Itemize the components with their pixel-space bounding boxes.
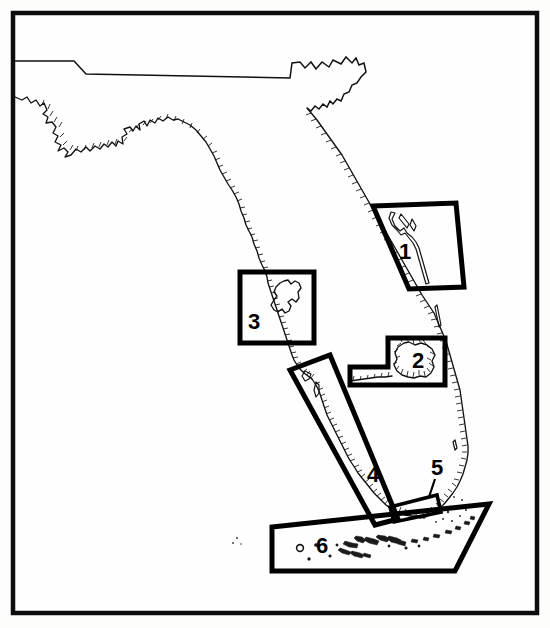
- study-area-label-1: 1: [399, 239, 411, 264]
- study-area-label-3: 3: [248, 309, 260, 334]
- study-area-label-4: 4: [367, 462, 380, 487]
- study-area-label-6: 6: [316, 533, 328, 558]
- figure-container: 1 2 3 4 5 6: [0, 0, 550, 628]
- study-area-label-2: 2: [412, 348, 424, 373]
- study-area-label-5: 5: [431, 455, 443, 480]
- florida-map: 1 2 3 4 5 6: [0, 0, 550, 628]
- outer-border: [13, 13, 537, 613]
